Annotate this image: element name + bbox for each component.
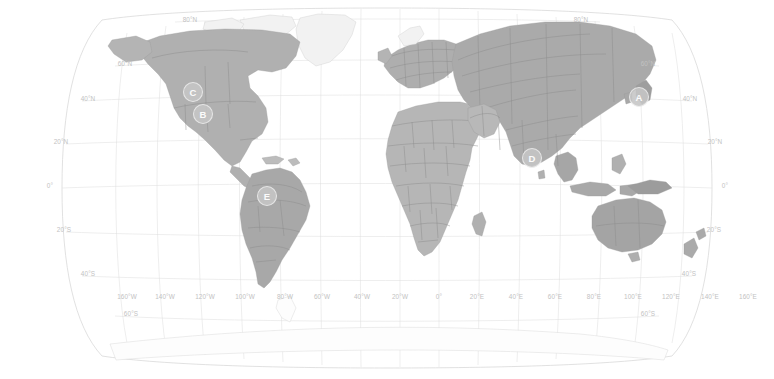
world-map-svg: 80°N60°N40°N20°N0°20°S40°S60°S 80°N60°N4… [0, 0, 774, 379]
longitude-label-16: 160°E [739, 293, 757, 300]
latitude-label-left-0: 80°N [183, 16, 198, 23]
marker-a[interactable]: A [630, 88, 649, 107]
longitude-label-15: 140°E [701, 293, 719, 300]
marker-c[interactable]: C [184, 83, 203, 102]
marker-b[interactable]: B [194, 105, 213, 124]
marker-d-label: D [529, 153, 536, 164]
marker-d[interactable]: D [523, 149, 542, 168]
longitude-label-14: 120°E [662, 293, 680, 300]
longitude-label-4: 80°W [277, 293, 294, 300]
longitude-label-13: 100°E [624, 293, 642, 300]
longitude-label-2: 120°W [195, 293, 216, 300]
latitude-label-left-4: 0° [47, 182, 54, 189]
longitude-label-0: 160°W [117, 293, 138, 300]
marker-a-label: A [636, 92, 643, 103]
longitude-label-7: 20°W [392, 293, 409, 300]
marker-c-label: C [190, 87, 197, 98]
latitude-label-left-1: 60°N [118, 60, 133, 67]
latitude-label-left-5: 20°S [57, 226, 71, 233]
longitude-label-10: 40°E [509, 293, 523, 300]
latitude-label-left-6: 40°S [81, 270, 95, 277]
longitude-label-5: 60°W [314, 293, 331, 300]
longitude-label-3: 100°W [235, 293, 256, 300]
latitude-label-right-4: 0° [722, 182, 729, 189]
latitude-label-right-1: 60°N [641, 60, 656, 67]
longitude-label-8: 0° [436, 293, 443, 300]
latitude-label-left-7: 60°S [124, 310, 138, 317]
longitude-label-11: 60°E [548, 293, 562, 300]
longitude-label-1: 140°W [155, 293, 176, 300]
marker-e[interactable]: E [258, 187, 277, 206]
longitude-label-12: 80°E [587, 293, 601, 300]
latitude-label-right-6: 40°S [682, 270, 696, 277]
latitude-label-right-3: 20°N [708, 138, 723, 145]
marker-b-label: B [200, 109, 207, 120]
latitude-label-right-7: 60°S [641, 310, 655, 317]
marker-e-label: E [264, 191, 270, 202]
latitude-label-right-5: 20°S [707, 226, 721, 233]
latitude-label-right-2: 40°N [683, 95, 698, 102]
longitude-label-6: 40°W [354, 293, 371, 300]
world-map-container: 80°N60°N40°N20°N0°20°S40°S60°S 80°N60°N4… [0, 0, 774, 379]
longitude-label-9: 20°E [470, 293, 484, 300]
latitude-label-left-3: 20°N [54, 138, 69, 145]
latitude-label-right-0: 80°N [574, 16, 589, 23]
latitude-label-left-2: 40°N [81, 95, 96, 102]
